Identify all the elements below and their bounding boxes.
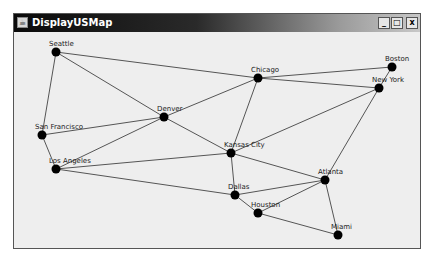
map-canvas: SeattleSan FranciscoLos AngelesDenverKan…: [14, 32, 420, 248]
city-node-denver[interactable]: [160, 113, 169, 122]
window-title: DisplayUSMap: [32, 16, 112, 30]
maximize-button[interactable]: □: [391, 17, 403, 29]
java-cup-icon[interactable]: ☕: [17, 17, 28, 28]
city-node-dallas[interactable]: [231, 191, 240, 200]
city-label-atlanta: Atlanta: [318, 168, 343, 176]
city-label-miami: Miami: [331, 223, 352, 231]
edge-seattle-denver: [56, 52, 164, 117]
edge-houston-miami: [258, 213, 338, 235]
city-label-new-york: New York: [372, 76, 405, 84]
edge-seattle-chicago: [56, 52, 258, 78]
city-label-boston: Boston: [385, 55, 409, 63]
city-label-houston: Houston: [251, 201, 280, 209]
edge-new-york-atlanta: [325, 88, 379, 180]
city-node-los-angeles[interactable]: [52, 165, 61, 174]
city-node-seattle[interactable]: [52, 48, 61, 57]
city-label-los-angeles: Los Angeles: [49, 157, 91, 165]
city-node-san-francisco[interactable]: [38, 131, 47, 140]
city-label-kansas-city: Kansas City: [224, 141, 265, 149]
close-button[interactable]: x: [406, 17, 418, 29]
city-node-atlanta[interactable]: [321, 176, 330, 185]
city-node-houston[interactable]: [254, 209, 263, 218]
us-map-graph: SeattleSan FranciscoLos AngelesDenverKan…: [14, 32, 420, 248]
city-label-chicago: Chicago: [251, 66, 279, 74]
city-node-new-york[interactable]: [375, 84, 384, 93]
edge-denver-kansas-city: [164, 117, 231, 153]
city-label-san-francisco: San Francisco: [35, 123, 83, 131]
edge-los-angeles-dallas: [56, 169, 235, 195]
app-window: ☕ DisplayUSMap _ □ x SeattleSan Francisc…: [13, 13, 421, 249]
city-node-kansas-city[interactable]: [227, 149, 236, 158]
city-label-seattle: Seattle: [49, 40, 74, 48]
city-node-boston[interactable]: [388, 63, 397, 72]
city-label-denver: Denver: [157, 105, 183, 113]
city-node-miami[interactable]: [334, 231, 343, 240]
minimize-button[interactable]: _: [378, 17, 390, 29]
edge-kansas-city-atlanta: [231, 153, 325, 180]
city-node-chicago[interactable]: [254, 74, 263, 83]
edge-chicago-new-york: [258, 78, 379, 88]
city-label-dallas: Dallas: [228, 183, 250, 191]
title-bar[interactable]: ☕ DisplayUSMap _ □ x: [14, 14, 420, 32]
